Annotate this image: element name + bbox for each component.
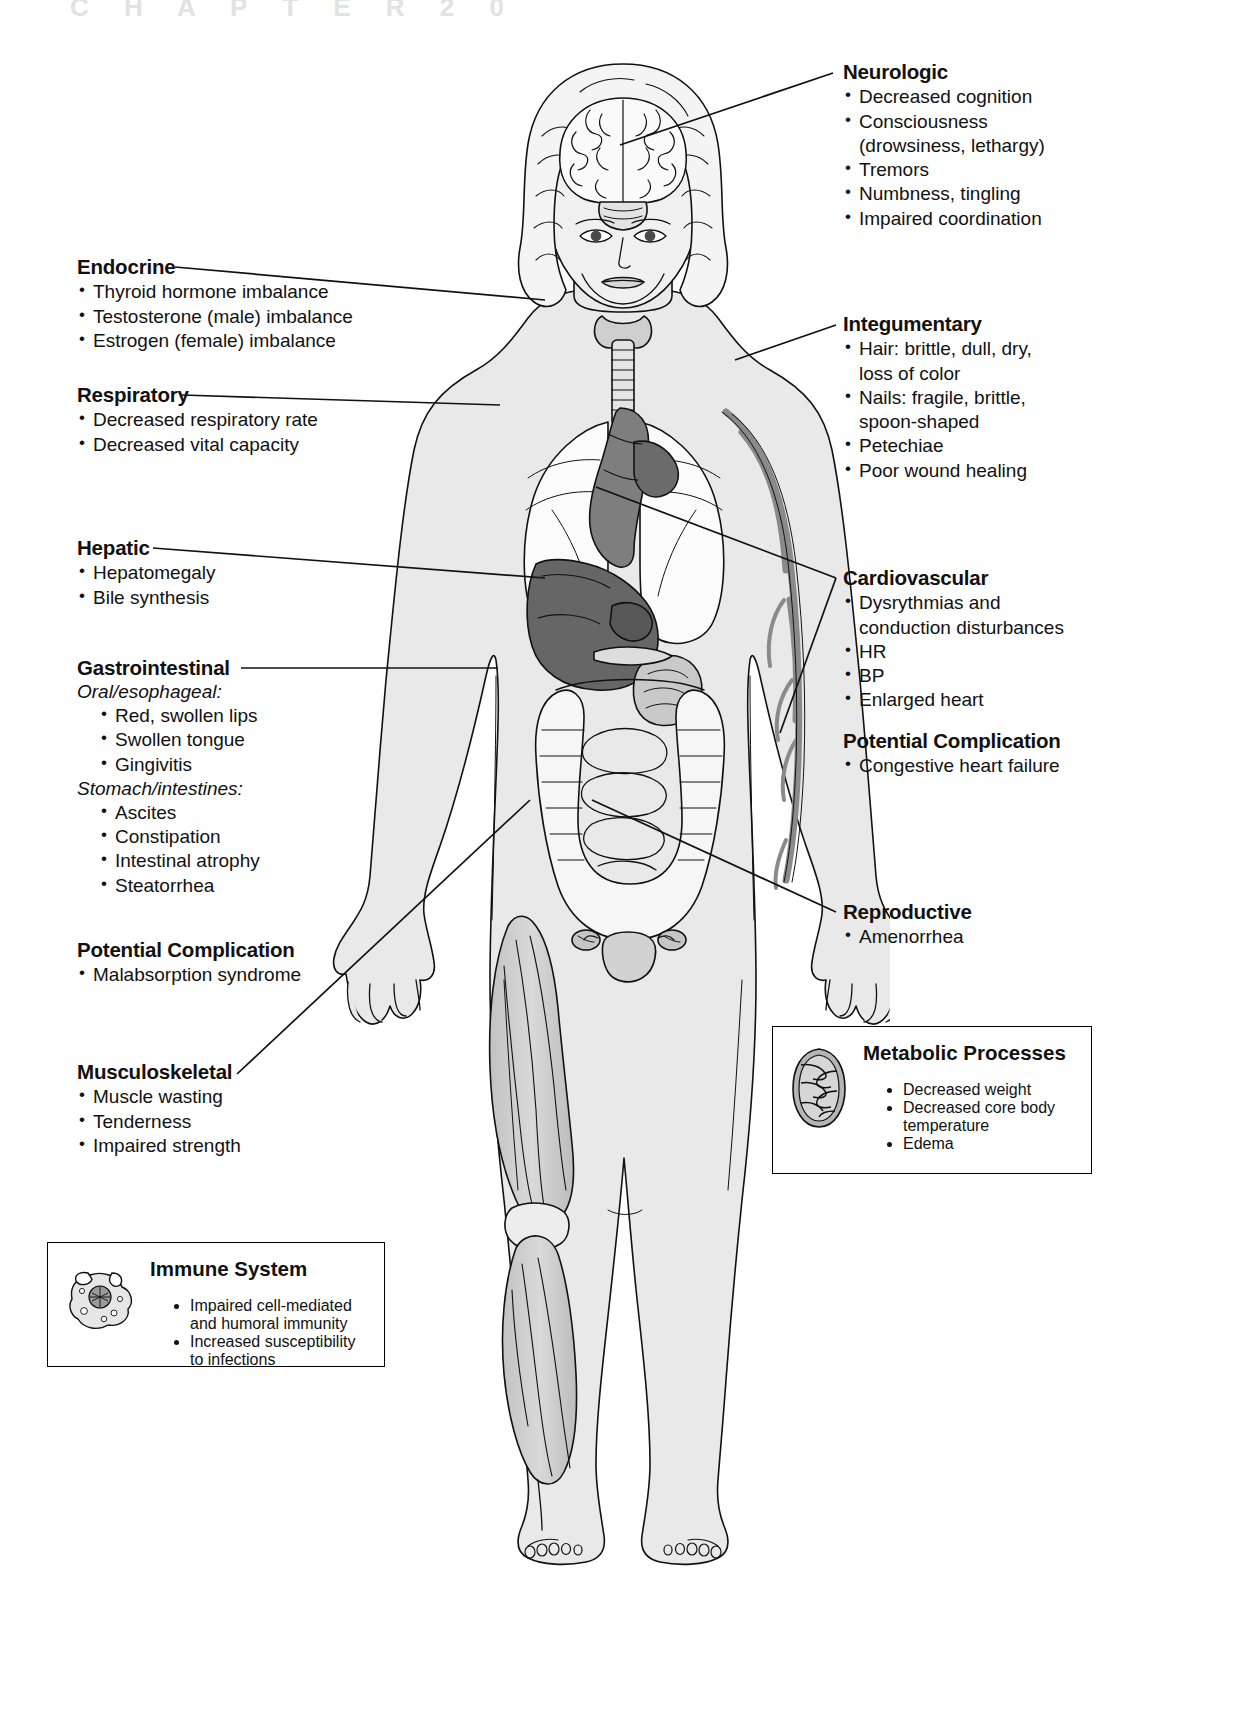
item-text: Testosterone (male) imbalance: [93, 306, 353, 327]
item-text-cont: spoon-shaped: [859, 410, 1032, 434]
macrophage-cell-icon: [62, 1261, 138, 1341]
item-text: Numbness, tingling: [859, 183, 1021, 204]
item-text: Impaired strength: [93, 1135, 241, 1156]
item-text: Steatorrhea: [115, 875, 214, 896]
item-text: Nails: fragile, brittle,: [859, 387, 1026, 408]
callout-musculoskeletal: Musculoskeletal Muscle wasting Tendernes…: [77, 1060, 241, 1158]
callout-list-neurologic: Decreased cognition Consciousness (drows…: [843, 85, 1045, 231]
item-text: Estrogen (female) imbalance: [93, 330, 336, 351]
callout-list-musculoskeletal: Muscle wasting Tenderness Impaired stren…: [77, 1085, 241, 1158]
item-text: Enlarged heart: [859, 689, 984, 710]
chapter-watermark: C H A P T E R 2 0: [70, 0, 518, 23]
callout-list-cv-complication: Congestive heart failure: [843, 754, 1064, 778]
callout-list-cardiovascular: Dysrythmias and conduction disturbances …: [843, 591, 1064, 713]
callout-title-gastrointestinal: Gastrointestinal: [77, 656, 260, 680]
item-text: Intestinal atrophy: [115, 850, 260, 871]
item-text: Poor wound healing: [859, 460, 1027, 481]
item-text: Edema: [903, 1135, 954, 1152]
mitochondrion-icon: [787, 1045, 851, 1135]
item-text: Petechiae: [859, 435, 944, 456]
callout-neurologic: Neurologic Decreased cognition Conscious…: [843, 60, 1045, 231]
infobox-body-immune: Immune System Impaired cell-mediated and…: [150, 1257, 370, 1385]
item-text: Hair: brittle, dull, dry,: [859, 338, 1032, 359]
item-text: Bile synthesis: [93, 587, 209, 608]
item-text-cont: to infections: [190, 1351, 275, 1368]
item-text: Malabsorption syndrome: [93, 964, 301, 985]
item-text: Consciousness: [859, 111, 988, 132]
infobox-title-immune-system: Immune System: [150, 1257, 370, 1281]
callout-subhead-oral-esophageal: Oral/esophageal:: [77, 681, 260, 704]
callout-list-respiratory: Decreased respiratory rate Decreased vit…: [77, 408, 318, 457]
item-text: Constipation: [115, 826, 221, 847]
item-text: Impaired coordination: [859, 208, 1042, 229]
callout-cardiovascular: Cardiovascular Dysrythmias and conductio…: [843, 566, 1064, 778]
item-text: Gingivitis: [115, 754, 192, 775]
callout-hepatic: Hepatic Hepatomegaly Bile synthesis: [77, 536, 216, 610]
callout-title-respiratory: Respiratory: [77, 383, 318, 407]
callout-title-reproductive: Reproductive: [843, 900, 972, 924]
item-text: Swollen tongue: [115, 729, 245, 750]
item-text: HR: [859, 641, 886, 662]
item-text: BP: [859, 665, 884, 686]
callout-list-hepatic: Hepatomegaly Bile synthesis: [77, 561, 216, 610]
item-text: Tremors: [859, 159, 929, 180]
item-text: Ascites: [115, 802, 176, 823]
callout-list-reproductive: Amenorrhea: [843, 925, 972, 949]
infobox-list-immune: Impaired cell-mediated and humoral immun…: [150, 1297, 370, 1369]
item-text-cont: temperature: [903, 1117, 989, 1134]
human-body-illustration: [290, 40, 890, 1610]
item-text: Decreased cognition: [859, 86, 1032, 107]
callout-title-musculoskeletal: Musculoskeletal: [77, 1060, 241, 1084]
callout-title-cardiovascular: Cardiovascular: [843, 566, 1064, 590]
callout-title-cv-complication: Potential Complication: [843, 729, 1064, 753]
infobox-body-metabolic: Metabolic Processes Decreased weight Dec…: [863, 1041, 1077, 1169]
callout-title-hepatic: Hepatic: [77, 536, 216, 560]
callout-subhead-stomach-intestines: Stomach/intestines:: [77, 778, 260, 801]
item-text-cont: conduction disturbances: [859, 616, 1064, 640]
item-text: Thyroid hormone imbalance: [93, 281, 329, 302]
callout-list-gi-stomach: Ascites Constipation Intestinal atrophy …: [99, 801, 260, 898]
item-text: Decreased weight: [903, 1081, 1031, 1098]
spacer: [843, 713, 1064, 729]
callout-gi-potential-complication: Potential Complication Malabsorption syn…: [77, 938, 301, 988]
item-text: Muscle wasting: [93, 1086, 223, 1107]
item-text: Impaired cell-mediated: [190, 1297, 352, 1314]
item-text-cont: (drowsiness, lethargy): [859, 134, 1045, 158]
item-text: Decreased vital capacity: [93, 434, 299, 455]
item-text: Congestive heart failure: [859, 755, 1060, 776]
callout-gastrointestinal: Gastrointestinal Oral/esophageal: Red, s…: [77, 656, 260, 898]
item-text: Increased susceptibility: [190, 1333, 355, 1350]
infobox-title-metabolic-processes: Metabolic Processes: [863, 1041, 1077, 1065]
item-text: Red, swollen lips: [115, 705, 258, 726]
callout-reproductive: Reproductive Amenorrhea: [843, 900, 972, 950]
item-text: Decreased core body: [903, 1099, 1055, 1116]
callout-title-integumentary: Integumentary: [843, 312, 1032, 336]
callout-list-integumentary: Hair: brittle, dull, dry, loss of color …: [843, 337, 1032, 483]
infobox-immune-system: Immune System Impaired cell-mediated and…: [47, 1242, 385, 1367]
callout-title-gi-complication: Potential Complication: [77, 938, 301, 962]
callout-title-neurologic: Neurologic: [843, 60, 1045, 84]
infobox-list-metabolic: Decreased weight Decreased core body tem…: [863, 1081, 1077, 1153]
item-text: Decreased respiratory rate: [93, 409, 318, 430]
infobox-metabolic-processes: Metabolic Processes Decreased weight Dec…: [772, 1026, 1092, 1174]
item-text: Hepatomegaly: [93, 562, 216, 583]
item-text-cont: and humoral immunity: [190, 1315, 347, 1332]
callout-title-endocrine: Endocrine: [77, 255, 353, 279]
item-text: Tenderness: [93, 1111, 191, 1132]
callout-integumentary: Integumentary Hair: brittle, dull, dry, …: [843, 312, 1032, 483]
callout-list-endocrine: Thyroid hormone imbalance Testosterone (…: [77, 280, 353, 353]
figure-page: C H A P T E R 2 0: [0, 0, 1236, 1710]
callout-list-gi-complication: Malabsorption syndrome: [77, 963, 301, 987]
item-text: Dysrythmias and: [859, 592, 1001, 613]
item-text: Amenorrhea: [859, 926, 964, 947]
callout-endocrine: Endocrine Thyroid hormone imbalance Test…: [77, 255, 353, 353]
callout-list-gi-oral: Red, swollen lips Swollen tongue Gingivi…: [99, 704, 260, 777]
callout-respiratory: Respiratory Decreased respiratory rate D…: [77, 383, 318, 457]
item-text-cont: loss of color: [859, 362, 1032, 386]
